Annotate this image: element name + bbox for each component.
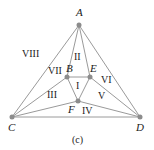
node-D (138, 115, 143, 120)
region-label-I: I (76, 80, 79, 91)
edges (12, 25, 140, 117)
region-label-V: V (98, 90, 106, 101)
vertex-label-E: E (89, 62, 97, 74)
region-label-II: II (74, 51, 81, 62)
vertex-label-B: B (66, 62, 73, 74)
figure-caption: (c) (72, 134, 83, 146)
node-C (10, 115, 15, 120)
node-B (65, 75, 70, 80)
region-label-III: III (47, 89, 57, 100)
edge-B-C (12, 77, 67, 117)
region-label-VII: VII (48, 65, 62, 76)
region-label-VI: VI (101, 74, 112, 85)
vertex-label-D: D (135, 121, 144, 133)
node-E (88, 75, 93, 80)
vertex-labels: A B C D E F (8, 6, 144, 133)
edge-E-F (78, 77, 90, 101)
planar-graph-diagram: A B C D E F I II III IV V VI VII VIII (c… (0, 0, 154, 150)
vertex-label-C: C (8, 121, 16, 133)
node-F (76, 99, 81, 104)
vertex-label-A: A (75, 6, 83, 18)
region-label-IV: IV (82, 105, 93, 116)
node-A (77, 23, 82, 28)
region-label-VIII: VIII (22, 48, 39, 59)
vertex-label-F: F (67, 103, 75, 115)
